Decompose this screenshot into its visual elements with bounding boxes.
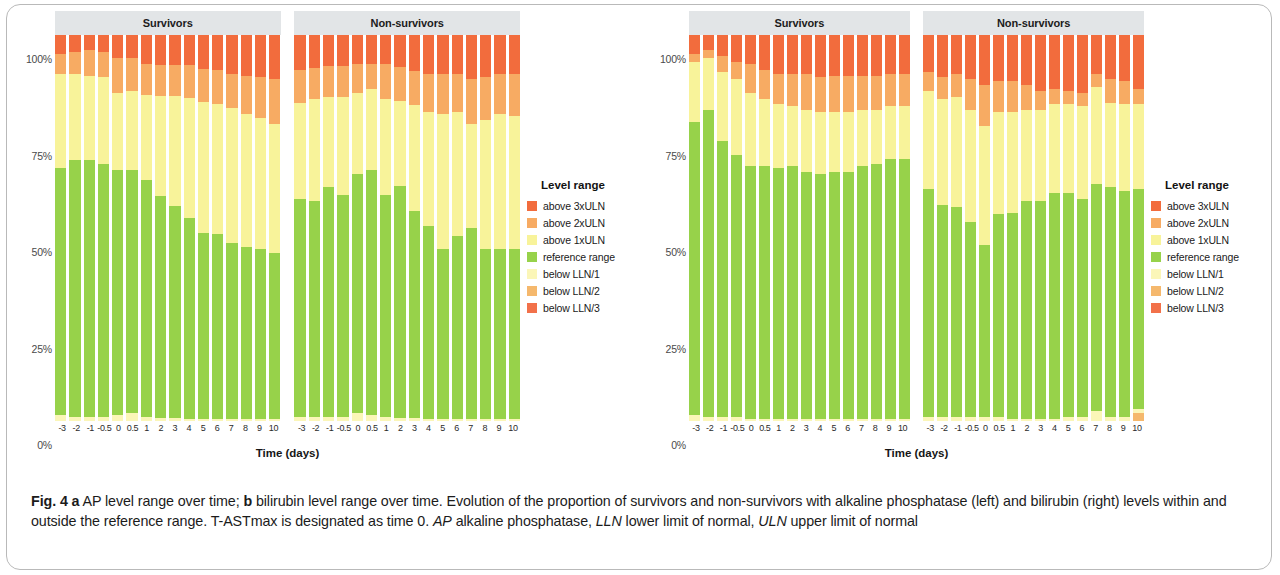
panel-a-survivors-bars [55, 35, 281, 421]
stacked-bar[interactable] [731, 35, 742, 421]
stacked-bar[interactable] [815, 35, 826, 421]
stacked-bar[interactable] [965, 35, 976, 421]
stacked-bar[interactable] [255, 35, 266, 421]
stacked-bar[interactable] [55, 35, 66, 421]
panel-a-nonsurvivors-header: Non-survivors [294, 11, 520, 35]
stacked-bar[interactable] [899, 35, 910, 421]
stacked-bar[interactable] [494, 35, 505, 421]
legend-item[interactable]: below LLN/2 [527, 283, 657, 299]
stacked-bar[interactable] [98, 35, 109, 421]
bar-segment [294, 35, 305, 70]
stacked-bar[interactable] [1091, 35, 1102, 421]
stacked-bar[interactable] [141, 35, 152, 421]
bar-segment [212, 104, 223, 233]
stacked-bar[interactable] [69, 35, 80, 421]
legend-item[interactable]: above 1xULN [527, 232, 657, 248]
stacked-bar[interactable] [112, 35, 123, 421]
bar-segment [323, 187, 334, 417]
legend-item-label: above 2xULN [1167, 217, 1229, 229]
bar-segment [993, 35, 1004, 81]
stacked-bar[interactable] [155, 35, 166, 421]
stacked-bar[interactable] [1007, 35, 1018, 421]
legend-item[interactable]: below LLN/3 [1151, 300, 1280, 316]
stacked-bar[interactable] [1035, 35, 1046, 421]
stacked-bar[interactable] [745, 35, 756, 421]
stacked-bar[interactable] [241, 35, 252, 421]
bar-segment [745, 419, 756, 421]
bar-segment [1049, 104, 1060, 193]
stacked-bar[interactable] [937, 35, 948, 421]
stacked-bar[interactable] [126, 35, 137, 421]
bar-segment [184, 218, 195, 419]
legend-swatch-icon [527, 235, 537, 245]
stacked-bar[interactable] [843, 35, 854, 421]
stacked-bar[interactable] [759, 35, 770, 421]
legend-item[interactable]: above 2xULN [527, 215, 657, 231]
stacked-bar[interactable] [951, 35, 962, 421]
bar-segment [184, 35, 195, 65]
stacked-bar[interactable] [212, 35, 223, 421]
stacked-bar[interactable] [409, 35, 420, 421]
stacked-bar[interactable] [1021, 35, 1032, 421]
bar-segment [55, 35, 66, 54]
stacked-bar[interactable] [857, 35, 868, 421]
legend-item[interactable]: above 1xULN [1151, 232, 1280, 248]
stacked-bar[interactable] [773, 35, 784, 421]
stacked-bar[interactable] [1133, 35, 1144, 421]
stacked-bar[interactable] [352, 35, 363, 421]
stacked-bar[interactable] [787, 35, 798, 421]
stacked-bar[interactable] [703, 35, 714, 421]
stacked-bar[interactable] [993, 35, 1004, 421]
stacked-bar[interactable] [366, 35, 377, 421]
x-axis-tick-label: 0.5 [992, 423, 1006, 439]
stacked-bar[interactable] [885, 35, 896, 421]
stacked-bar[interactable] [1119, 35, 1130, 421]
legend-item[interactable]: above 2xULN [1151, 215, 1280, 231]
stacked-bar[interactable] [198, 35, 209, 421]
stacked-bar[interactable] [337, 35, 348, 421]
stacked-bar[interactable] [801, 35, 812, 421]
legend-item[interactable]: below LLN/1 [1151, 266, 1280, 282]
stacked-bar[interactable] [1105, 35, 1116, 421]
stacked-bar[interactable] [509, 35, 520, 421]
bar-segment [1007, 112, 1018, 212]
stacked-bar[interactable] [269, 35, 280, 421]
stacked-bar[interactable] [423, 35, 434, 421]
bar-segment [965, 417, 976, 421]
bar-segment [689, 415, 700, 421]
bar-segment [380, 35, 391, 64]
legend-item-label: below LLN/1 [543, 268, 600, 280]
bar-segment [703, 50, 714, 58]
stacked-bar[interactable] [480, 35, 491, 421]
stacked-bar[interactable] [452, 35, 463, 421]
stacked-bar[interactable] [829, 35, 840, 421]
bar-segment [703, 417, 714, 421]
stacked-bar[interactable] [717, 35, 728, 421]
stacked-bar[interactable] [226, 35, 237, 421]
stacked-bar[interactable] [437, 35, 448, 421]
legend-item[interactable]: reference range [527, 249, 657, 265]
stacked-bar[interactable] [394, 35, 405, 421]
stacked-bar[interactable] [294, 35, 305, 421]
stacked-bar[interactable] [323, 35, 334, 421]
stacked-bar[interactable] [466, 35, 477, 421]
bar-segment [1063, 417, 1074, 421]
stacked-bar[interactable] [871, 35, 882, 421]
stacked-bar[interactable] [84, 35, 95, 421]
stacked-bar[interactable] [309, 35, 320, 421]
legend-item[interactable]: above 3xULN [527, 198, 657, 214]
legend-item[interactable]: reference range [1151, 249, 1280, 265]
stacked-bar[interactable] [184, 35, 195, 421]
stacked-bar[interactable] [1063, 35, 1074, 421]
legend-item[interactable]: below LLN/3 [527, 300, 657, 316]
stacked-bar[interactable] [979, 35, 990, 421]
stacked-bar[interactable] [169, 35, 180, 421]
legend-item[interactable]: below LLN/1 [527, 266, 657, 282]
legend-item[interactable]: above 3xULN [1151, 198, 1280, 214]
stacked-bar[interactable] [689, 35, 700, 421]
stacked-bar[interactable] [923, 35, 934, 421]
stacked-bar[interactable] [1077, 35, 1088, 421]
legend-item[interactable]: below LLN/2 [1151, 283, 1280, 299]
stacked-bar[interactable] [1049, 35, 1060, 421]
stacked-bar[interactable] [380, 35, 391, 421]
